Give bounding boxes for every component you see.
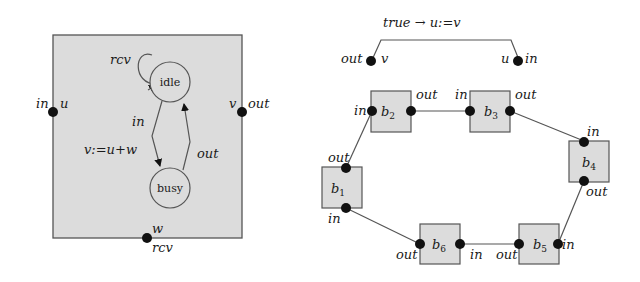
- component-diagram: idle rcv busy in v:=u+w out in u v out w…: [36, 35, 270, 255]
- diagram-canvas: idle rcv busy in v:=u+w out in u v out w…: [0, 0, 640, 282]
- rcv-port[interactable]: [142, 233, 152, 243]
- connector-u-label: u: [501, 51, 509, 66]
- rcv-port-var: w: [152, 221, 163, 236]
- connector-in-port[interactable]: [513, 56, 523, 66]
- out-port[interactable]: [237, 107, 247, 117]
- block-b1[interactable]: b1 out in: [322, 150, 362, 226]
- b3-in-port[interactable]: [465, 106, 475, 116]
- b2-in-label: in: [354, 103, 367, 118]
- in-port-var: u: [60, 96, 68, 111]
- out-port-var: v: [229, 96, 237, 111]
- action-label: v:=u+w: [84, 142, 137, 157]
- b1-in-label: in: [328, 211, 341, 226]
- connector-out-label: out: [341, 51, 363, 66]
- connector-guard: true → u:=v: [383, 15, 461, 30]
- b6-in-label: in: [470, 247, 483, 262]
- component-box: [53, 35, 242, 238]
- in-port-label: in: [36, 96, 49, 111]
- in-port[interactable]: [48, 107, 58, 117]
- b3-in-label: in: [455, 87, 468, 102]
- b1-out-label: out: [328, 150, 350, 165]
- block-b3[interactable]: b3 in out: [455, 87, 537, 132]
- connector-out-port[interactable]: [366, 56, 376, 66]
- state-idle-label: idle: [160, 76, 181, 89]
- connector-v-label: v: [381, 51, 389, 66]
- b2-out-port[interactable]: [406, 106, 416, 116]
- b5-in-label: in: [562, 237, 575, 252]
- b1-in-port[interactable]: [341, 203, 351, 213]
- in-transition-label: in: [132, 114, 145, 129]
- b5-out-label: out: [496, 247, 518, 262]
- self-loop-label: rcv: [110, 52, 131, 67]
- architecture-diagram: true → u:=v out v u in b1 out in b2: [322, 15, 609, 264]
- rcv-port-label: rcv: [152, 240, 173, 255]
- b3-out-port[interactable]: [505, 106, 515, 116]
- b6-in-port[interactable]: [455, 239, 465, 249]
- b4-out-label: out: [586, 184, 608, 199]
- b6-out-label: out: [396, 247, 418, 262]
- b4-in-label: in: [587, 124, 600, 139]
- block-b4[interactable]: b4 in out: [569, 124, 609, 199]
- connector-in-label: in: [525, 51, 538, 66]
- out-transition-label: out: [197, 146, 219, 161]
- b2-out-label: out: [416, 87, 438, 102]
- state-busy-label: busy: [157, 182, 184, 195]
- out-port-label: out: [248, 96, 270, 111]
- block-b2[interactable]: b2 in out: [354, 87, 438, 132]
- b3-out-label: out: [515, 87, 537, 102]
- connector-line: [372, 40, 519, 60]
- b2-in-port[interactable]: [367, 106, 377, 116]
